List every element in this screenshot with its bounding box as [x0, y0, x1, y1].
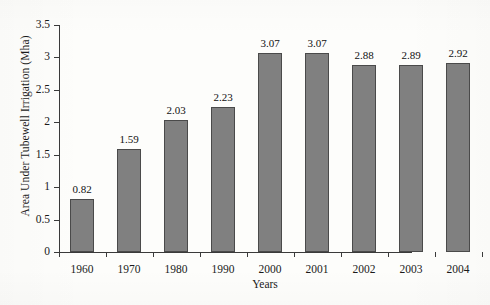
y-tick-mark	[54, 122, 59, 123]
y-axis-line	[59, 25, 60, 253]
plot-area: 00.511.522.533.5 19601970198019902000200…	[59, 25, 471, 252]
bar	[446, 63, 470, 252]
bar	[258, 53, 282, 252]
bar	[211, 107, 235, 252]
y-tick-mark	[54, 220, 59, 221]
y-tick-label: 0	[44, 244, 50, 259]
bar-value-label: 2.92	[435, 47, 481, 59]
y-tick-label: 1.5	[36, 147, 50, 162]
y-tick-label: 2	[44, 114, 50, 129]
x-tick-mark	[247, 252, 248, 257]
x-tick-label: 2004	[428, 263, 488, 275]
bar	[352, 65, 376, 252]
bar	[70, 199, 94, 252]
x-tick-mark	[59, 252, 60, 257]
x-tick-mark	[153, 252, 154, 257]
y-tick-mark	[54, 25, 59, 26]
y-tick-label: 0.5	[36, 212, 50, 227]
x-axis-title: Years	[59, 278, 471, 290]
y-tick-mark	[54, 90, 59, 91]
y-tick-label: 3.5	[36, 17, 50, 32]
y-tick-label: 1	[44, 179, 50, 194]
bar-value-label: 1.59	[106, 133, 152, 145]
x-tick-mark	[341, 252, 342, 257]
bar-value-label: 0.82	[59, 183, 105, 195]
y-tick-label: 2.5	[36, 82, 50, 97]
x-tick-mark	[435, 252, 436, 257]
y-axis-title: Area Under Tubewell Irrigation (Mha)	[12, 0, 38, 252]
bar-value-label: 2.88	[341, 49, 387, 61]
bar-value-label: 3.07	[247, 37, 293, 49]
bar	[399, 65, 423, 252]
y-tick-mark	[54, 155, 59, 156]
bar-value-label: 2.23	[200, 91, 246, 103]
bar-value-label: 3.07	[294, 37, 340, 49]
y-tick-label: 3	[44, 49, 50, 64]
bar-chart-figure: Area Under Tubewell Irrigation (Mha) Yea…	[0, 0, 490, 305]
x-tick-mark	[388, 252, 389, 257]
bar-value-label: 2.89	[388, 49, 434, 61]
bar-value-label: 2.03	[153, 104, 199, 116]
x-tick-mark	[482, 252, 483, 257]
bar	[305, 53, 329, 252]
bar	[117, 149, 141, 252]
x-tick-mark	[200, 252, 201, 257]
x-tick-mark	[294, 252, 295, 257]
y-tick-mark	[54, 57, 59, 58]
x-axis-line	[59, 252, 412, 253]
x-tick-mark	[106, 252, 107, 257]
bar	[164, 120, 188, 252]
